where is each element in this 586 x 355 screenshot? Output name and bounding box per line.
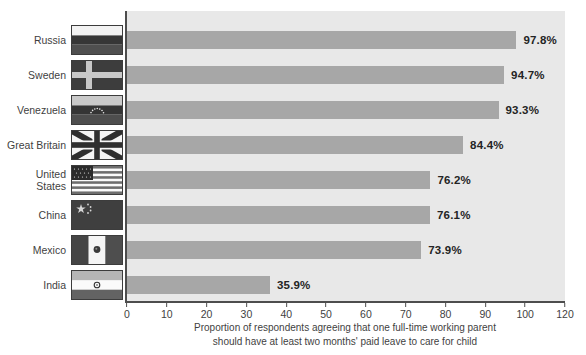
- category-row-united-states: United States: [0, 166, 125, 194]
- country-label: India: [43, 279, 66, 291]
- bar-row-great-britain: 84.4%: [127, 136, 565, 154]
- value-label: 93.3%: [506, 104, 540, 116]
- india-flag: [72, 271, 122, 299]
- x-tick: 30: [241, 303, 253, 320]
- bar-row-mexico: 73.9%: [127, 241, 565, 259]
- x-tick-label: 20: [201, 308, 213, 320]
- x-tick: 20: [201, 303, 213, 320]
- bar-row-china: 76.1%: [127, 206, 565, 224]
- category-row-sweden: Sweden: [0, 61, 125, 89]
- tick-mark: [286, 303, 287, 307]
- tick-mark: [525, 303, 526, 307]
- tick-mark: [405, 303, 406, 307]
- x-tick-label: 60: [360, 308, 372, 320]
- tick-mark: [445, 303, 446, 307]
- x-tick: 100: [516, 303, 534, 320]
- category-column: Russia Sweden Venezuela: [0, 11, 125, 301]
- x-axis-title-line2: should have at least two months' paid le…: [125, 335, 565, 349]
- tick-mark: [166, 303, 167, 307]
- x-tick: 80: [440, 303, 452, 320]
- tick-mark: [127, 303, 128, 307]
- country-label: United States: [36, 168, 66, 192]
- sweden-flag: [72, 61, 122, 89]
- x-tick-label: 120: [556, 308, 574, 320]
- bar-row-india: 35.9%: [127, 276, 565, 294]
- country-label: Great Britain: [7, 139, 66, 151]
- x-tick-label: 40: [280, 308, 292, 320]
- x-tick: 0: [124, 303, 130, 320]
- china-flag: [72, 201, 122, 229]
- x-tick-label: 80: [440, 308, 452, 320]
- bar-china: [127, 206, 430, 224]
- x-tick: 70: [400, 303, 412, 320]
- value-label: 76.1%: [437, 209, 471, 221]
- category-row-china: China: [0, 201, 125, 229]
- bar-row-sweden: 94.7%: [127, 66, 565, 84]
- x-tick: 40: [280, 303, 292, 320]
- x-tick-label: 90: [480, 308, 492, 320]
- tick-mark: [326, 303, 327, 307]
- tick-mark: [206, 303, 207, 307]
- bar-chart: 97.8% 94.7% 93.3% 84.4% 76.2% 76.1% 73.9…: [0, 0, 586, 355]
- united-states-flag: [72, 166, 122, 194]
- x-tick: 50: [320, 303, 332, 320]
- bar-venezuela: [127, 101, 499, 119]
- bar-row-united-states: 76.2%: [127, 171, 565, 189]
- bar-russia: [127, 31, 516, 49]
- country-label: Sweden: [28, 69, 66, 81]
- great-britain-flag: [72, 131, 122, 159]
- x-axis-title: Proportion of respondents agreeing that …: [125, 321, 565, 348]
- mexico-flag: [72, 236, 122, 264]
- country-label: Mexico: [33, 244, 66, 256]
- country-label: Russia: [34, 34, 66, 46]
- x-tick-label: 10: [161, 308, 173, 320]
- bar-india: [127, 276, 270, 294]
- category-row-mexico: Mexico: [0, 236, 125, 264]
- bar-row-venezuela: 93.3%: [127, 101, 565, 119]
- bar-united-states: [127, 171, 430, 189]
- category-row-russia: Russia: [0, 26, 125, 54]
- x-tick-label: 50: [320, 308, 332, 320]
- russia-flag: [72, 26, 122, 54]
- bar-row-russia: 97.8%: [127, 31, 565, 49]
- x-axis: 0102030405060708090100120: [127, 303, 565, 321]
- bar-sweden: [127, 66, 504, 84]
- tick-mark: [485, 303, 486, 307]
- country-label: China: [39, 209, 66, 221]
- x-tick-label: 30: [241, 308, 253, 320]
- value-label: 84.4%: [470, 139, 504, 151]
- bar-great-britain: [127, 136, 463, 154]
- country-label: Venezuela: [17, 104, 66, 116]
- x-tick: 120: [556, 303, 574, 320]
- venezuela-flag: [72, 96, 122, 124]
- value-label: 76.2%: [437, 174, 471, 186]
- value-label: 73.9%: [428, 244, 462, 256]
- category-row-great-britain: Great Britain: [0, 131, 125, 159]
- x-tick-label: 0: [124, 308, 130, 320]
- category-row-venezuela: Venezuela: [0, 96, 125, 124]
- value-label: 94.7%: [511, 69, 545, 81]
- x-axis-title-line1: Proportion of respondents agreeing that …: [125, 321, 565, 335]
- value-label: 35.9%: [277, 279, 311, 291]
- tick-mark: [565, 303, 566, 307]
- x-tick-label: 70: [400, 308, 412, 320]
- tick-mark: [246, 303, 247, 307]
- x-tick: 60: [360, 303, 372, 320]
- plot-area: 97.8% 94.7% 93.3% 84.4% 76.2% 76.1% 73.9…: [125, 11, 565, 303]
- value-label: 97.8%: [523, 34, 557, 46]
- x-tick-label: 100: [516, 308, 534, 320]
- x-tick: 10: [161, 303, 173, 320]
- bar-mexico: [127, 241, 421, 259]
- tick-mark: [365, 303, 366, 307]
- category-row-india: India: [0, 271, 125, 299]
- x-tick: 90: [480, 303, 492, 320]
